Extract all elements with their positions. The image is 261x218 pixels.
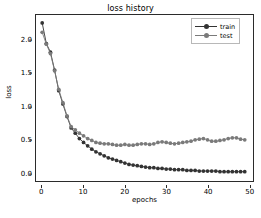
series-marker-test [218, 139, 222, 143]
series-marker-test [164, 141, 168, 145]
series-marker-test [44, 42, 48, 46]
series-marker-test [123, 143, 127, 147]
series-marker-test [57, 87, 61, 91]
series-marker-test [210, 139, 214, 143]
series-marker-train [173, 168, 177, 172]
series-marker-test [230, 136, 234, 140]
y-tick-mark [29, 106, 32, 107]
series-marker-train [148, 166, 152, 170]
legend-item-test[interactable]: test [195, 31, 235, 40]
series-marker-test [214, 139, 218, 143]
series-marker-test [90, 139, 94, 143]
y-tick-mark [29, 39, 32, 40]
series-marker-train [206, 169, 210, 173]
series-marker-train [78, 137, 82, 141]
series-marker-train [111, 157, 115, 161]
y-axis-ticks: 0.00.51.01.52.0 [0, 14, 32, 182]
series-marker-test [144, 142, 148, 146]
series-marker-train [202, 169, 206, 173]
x-tick-label: 30 [154, 189, 178, 196]
series-marker-train [210, 169, 214, 173]
series-marker-test [189, 139, 193, 143]
series-marker-test [73, 128, 77, 132]
legend-label: train [217, 23, 235, 31]
series-marker-test [102, 142, 106, 146]
series-marker-test [69, 125, 73, 129]
series-marker-train [119, 160, 123, 164]
series-marker-train [193, 168, 197, 172]
series-marker-test [239, 137, 243, 141]
series-marker-train [102, 154, 106, 158]
series-marker-train [214, 169, 218, 173]
series-marker-train [177, 168, 181, 172]
series-marker-test [185, 140, 189, 144]
series-marker-test [40, 30, 44, 34]
series-marker-train [156, 167, 160, 171]
chart-legend: traintest [191, 18, 240, 44]
x-tick-label: 40 [196, 189, 220, 196]
series-marker-train [127, 163, 131, 167]
series-marker-test [148, 143, 152, 147]
legend-item-train[interactable]: train [195, 22, 235, 31]
y-tick-mark [29, 73, 32, 74]
series-marker-train [243, 170, 247, 174]
legend-marker-icon [204, 24, 209, 29]
series-marker-test [94, 141, 98, 145]
series-marker-test [115, 143, 119, 147]
series-marker-test [86, 137, 90, 141]
series-marker-train [230, 170, 234, 174]
series-marker-test [106, 142, 110, 146]
x-tick-label: 20 [113, 189, 137, 196]
series-marker-train [135, 164, 139, 168]
series-marker-train [181, 168, 185, 172]
x-tick-label: 10 [71, 189, 95, 196]
series-marker-train [140, 165, 144, 169]
series-marker-train [235, 170, 239, 174]
series-marker-test [202, 137, 206, 141]
legend-marker-icon [204, 33, 209, 38]
series-marker-test [131, 143, 135, 147]
y-tick-mark [29, 140, 32, 141]
series-marker-test [82, 134, 86, 138]
series-marker-train [197, 169, 201, 173]
chart-title: loss history [0, 4, 261, 13]
series-marker-train [115, 159, 119, 163]
series-marker-test [168, 141, 172, 145]
series-marker-train [222, 170, 226, 174]
series-marker-train [94, 150, 98, 154]
series-marker-train [144, 165, 148, 169]
series-marker-test [160, 140, 164, 144]
legend-label: test [217, 32, 232, 40]
series-marker-train [152, 166, 156, 170]
series-marker-test [65, 114, 69, 118]
y-tick-mark [29, 174, 32, 175]
series-marker-train [82, 141, 86, 145]
x-tick-label: 50 [238, 189, 261, 196]
series-marker-test [197, 137, 201, 141]
series-marker-train [131, 163, 135, 167]
series-marker-test [173, 142, 177, 146]
series-marker-test [152, 142, 156, 146]
series-marker-test [222, 138, 226, 142]
series-marker-train [218, 170, 222, 174]
series-marker-test [181, 141, 185, 145]
series-marker-train [185, 168, 189, 172]
series-marker-train [40, 21, 44, 25]
series-marker-test [177, 141, 181, 145]
series-line-train [42, 23, 245, 172]
series-marker-train [189, 168, 193, 172]
series-marker-train [226, 170, 230, 174]
series-marker-test [98, 141, 102, 145]
series-marker-test [156, 141, 160, 145]
series-marker-test [235, 136, 239, 140]
series-marker-test [78, 131, 82, 135]
series-marker-train [106, 156, 110, 160]
series-marker-test [135, 143, 139, 147]
series-marker-train [168, 167, 172, 171]
chart-figure: loss history loss 0.00.51.01.52.0 010203… [0, 0, 261, 218]
series-marker-test [111, 143, 115, 147]
series-marker-test [119, 143, 123, 147]
series-marker-train [160, 167, 164, 171]
series-marker-test [226, 137, 230, 141]
legend-swatch-icon [195, 22, 217, 31]
